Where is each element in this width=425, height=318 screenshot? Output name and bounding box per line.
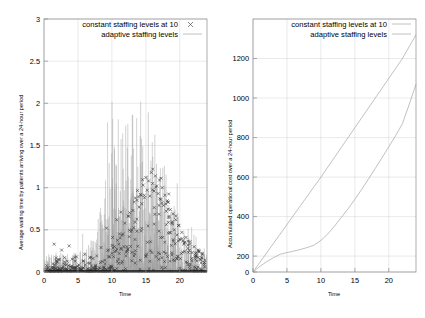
operational-cost-panel: Accumulated operational cost over a 24-h… [213, 0, 425, 318]
horizontal-gridlines [44, 19, 207, 272]
x-tick-label-20: 20 [176, 276, 184, 285]
x-tick-label-15: 15 [351, 276, 359, 285]
adaptive-staffing-series [253, 84, 416, 272]
constant-staffing-series [253, 35, 416, 272]
y-tick-label-0: 0 [36, 268, 40, 277]
waiting-time-plot: Average waiting time by patients arrivin… [0, 0, 212, 318]
x-tick-label-5: 5 [285, 276, 289, 285]
y-tick-label-1: 1 [36, 183, 40, 192]
y-tick-label-600: 600 [237, 173, 249, 182]
y-axis-ticks: 0 0.5 1 1.5 2 2.5 3 [30, 15, 48, 277]
y-axis-title: Average waiting time by patients arrivin… [18, 95, 24, 250]
y-tick-label-800: 800 [237, 133, 249, 142]
legend: constant staffing levels at 10 adaptive … [291, 20, 411, 39]
operational-cost-plot: Accumulated operational cost over a 24-h… [213, 0, 425, 318]
y-tick-label-1-5: 1.5 [30, 141, 40, 150]
y-tick-label-0-5: 0.5 [30, 225, 40, 234]
y-tick-label-400: 400 [237, 212, 249, 221]
x-tick-label-5: 5 [76, 276, 80, 285]
legend-label-adaptive: adaptive staffing levels [101, 30, 178, 39]
legend-label-constant: constant staffing levels at 10 [82, 20, 178, 29]
y-tick-label-1200: 1200 [233, 54, 249, 63]
y-tick-label-2: 2 [36, 99, 40, 108]
y-tick-label-0: 0 [245, 268, 249, 277]
x-tick-label-15: 15 [142, 276, 150, 285]
legend: constant staffing levels at 10 adaptive … [82, 20, 202, 39]
plot-frame [253, 19, 416, 272]
x-tick-label-10: 10 [317, 276, 325, 285]
y-tick-label-2-5: 2.5 [30, 57, 40, 66]
legend-label-adaptive: adaptive staffing levels [310, 30, 387, 39]
y-axis-title: Accumulated operational cost over a 24-h… [227, 120, 233, 248]
legend-marker-cross-icon [188, 22, 193, 27]
x-axis-title: Time [119, 291, 131, 297]
y-tick-label-200: 200 [237, 252, 249, 261]
y-tick-label-3: 3 [36, 15, 40, 24]
x-axis-title: Time [328, 291, 340, 297]
y-tick-label-1000: 1000 [233, 94, 249, 103]
x-tick-label-20: 20 [385, 276, 393, 285]
x-axis-ticks: 0 5 10 15 20 [251, 268, 393, 285]
x-tick-label-0: 0 [251, 276, 255, 285]
legend-label-constant: constant staffing levels at 10 [291, 20, 387, 29]
x-tick-label-10: 10 [108, 276, 116, 285]
horizontal-gridlines [253, 19, 416, 272]
vertical-gridlines [253, 19, 389, 272]
waiting-time-panel: Average waiting time by patients arrivin… [0, 0, 212, 318]
two-panel-figure: Average waiting time by patients arrivin… [0, 0, 425, 318]
x-tick-label-0: 0 [42, 276, 46, 285]
